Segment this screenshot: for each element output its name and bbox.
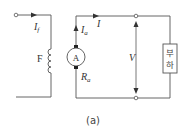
armature-label: A — [73, 53, 80, 63]
armature-current-arrow-icon — [74, 25, 79, 31]
field-terminal — [14, 13, 18, 17]
brush-bottom — [74, 66, 78, 69]
load-label-line2: 하 — [166, 60, 174, 70]
armature-resistance-label: Ra — [80, 71, 91, 84]
field-coil-label: F — [37, 53, 43, 64]
armature-circuit: A Ia Ra — [67, 16, 91, 98]
load-label-line1: 부 — [166, 48, 174, 58]
field-coil-icon — [48, 49, 51, 73]
output-terminal-bottom — [134, 96, 138, 100]
armature-current-label: Ia — [80, 24, 88, 37]
dc-generator-circuit: If F A Ia Ra I V 부 하 (a) — [0, 0, 186, 132]
field-circuit: If F — [14, 13, 51, 98]
field-current-arrow-icon — [31, 13, 37, 18]
brush-top — [74, 45, 78, 48]
output-terminal-top — [134, 14, 138, 18]
figure-caption: (a) — [86, 115, 100, 126]
output-circuit: I V 부 하 — [76, 14, 177, 100]
field-current-label: If — [33, 21, 40, 34]
line-current-label: I — [96, 18, 101, 29]
